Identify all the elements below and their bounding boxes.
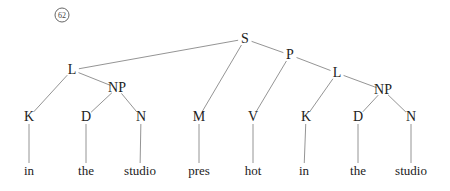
node-l1: L [68,63,77,77]
leaf-word: in [24,164,34,177]
node-d2: D [353,110,363,124]
tree-edge [203,45,242,111]
tree-edge [304,124,305,163]
tree-edge [79,40,238,69]
tree-edge [344,75,377,87]
leaf-word: pres [188,164,210,177]
node-k2: K [301,110,311,124]
leaf-word: the [350,164,366,177]
node-k1: K [24,110,34,124]
tree-edge [257,61,287,111]
node-np2: NP [374,83,392,97]
example-number: 62 [55,8,70,23]
tree-edge [140,124,141,163]
tree-edge [363,95,378,112]
leaf-word: the [78,164,94,177]
leaf-word: studio [124,164,156,177]
node-m: M [193,110,205,124]
leaf-word: in [299,164,309,177]
leaf-word: hot [245,164,262,177]
leaf-word: studio [395,164,427,177]
tree-edge [121,93,136,111]
node-v: V [248,110,258,124]
tree-edge [388,95,406,112]
tree-edge [34,75,68,112]
tree-edge [310,79,333,112]
tree-edge [252,41,284,52]
tree-edge [78,73,110,86]
node-p: P [286,48,294,62]
syntax-tree: 62 SLNPPLNPKDNMVKDNinthestudiopreshotint… [0,0,450,191]
node-n1: N [136,110,146,124]
tree-edge [297,58,331,71]
node-s: S [241,32,249,46]
node-np1: NP [108,81,126,95]
tree-edge [91,93,112,112]
node-n2: N [406,110,416,124]
node-d1: D [81,110,91,124]
node-l2: L [333,66,342,80]
